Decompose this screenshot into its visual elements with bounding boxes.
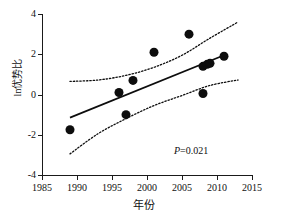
data-point: [122, 110, 131, 119]
data-point: [150, 48, 159, 57]
chart-figure: 420-2-4 1985199019952000200520102015 ln优…: [0, 0, 287, 220]
data-point: [199, 89, 208, 98]
data-point: [185, 30, 194, 39]
data-point: [206, 59, 215, 68]
chart-data-layer: [0, 0, 287, 220]
confidence-band-lower: [70, 80, 238, 154]
data-point: [115, 88, 124, 97]
data-point: [220, 52, 229, 61]
data-point: [129, 76, 138, 85]
data-point: [66, 125, 75, 134]
